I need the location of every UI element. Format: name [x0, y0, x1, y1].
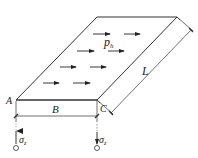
length-label: L — [141, 64, 149, 78]
stress-right-label: σz — [99, 134, 107, 146]
corner-a-label: A — [5, 95, 13, 106]
stress-left-label: σz — [19, 134, 27, 146]
stress-point-right: σz — [95, 124, 107, 151]
stress-point-marker — [95, 146, 100, 151]
slab-top-face — [16, 17, 177, 100]
stress-point-left: σz — [14, 131, 27, 151]
footing-diagram: ph L A C B σz σz — [0, 0, 198, 158]
slab — [16, 17, 180, 103]
corner-c-label: C — [100, 103, 107, 114]
stress-point-marker — [14, 146, 19, 151]
width-label: B — [52, 103, 59, 115]
